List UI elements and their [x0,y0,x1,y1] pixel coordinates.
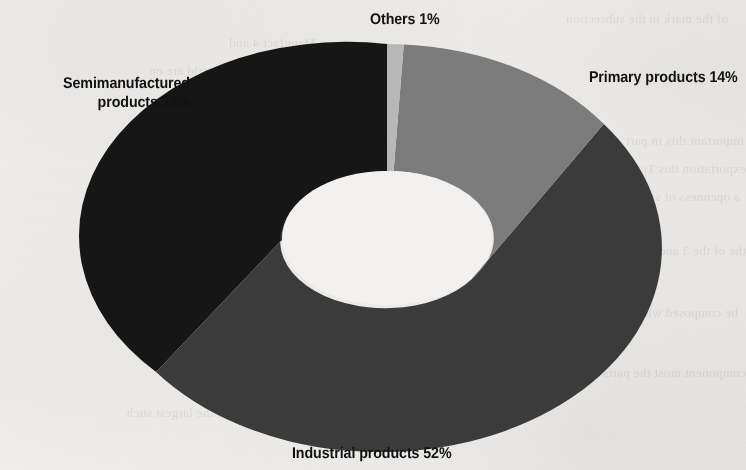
donut-chart: Others 1% Primary products 14% Semimanuf… [0,0,746,470]
slice-label-primary-products: Primary products 14% [589,68,738,87]
slice-label-others: Others 1% [370,10,440,29]
slice-label-industrial-products: Industrial products 52% [292,444,452,463]
chart-page: of the mark in the subsection Manufact 4… [0,0,746,470]
slice-label-semimanufactured-products: Semimanufactured products 33% [24,74,190,112]
